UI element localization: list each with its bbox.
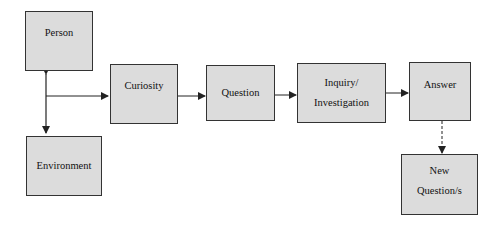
node-curiosity: Curiosity <box>110 64 178 124</box>
node-environment: Environment <box>26 136 102 196</box>
node-label-line1: Inquiry/ <box>325 73 359 93</box>
node-label: Person <box>45 23 74 43</box>
node-label: Environment <box>37 156 92 176</box>
node-question: Question <box>206 65 275 121</box>
node-answer: Answer <box>409 62 471 121</box>
inquiry-process-diagram: Person Environment Curiosity Question In… <box>0 0 502 227</box>
node-label-line1: New <box>430 161 450 181</box>
node-person: Person <box>25 11 93 71</box>
node-inquiry-investigation: Inquiry/ Investigation <box>297 63 386 123</box>
node-label: Curiosity <box>124 76 163 96</box>
node-label-line2: Question/s <box>417 181 462 201</box>
node-label-line2: Investigation <box>314 93 369 113</box>
node-new-questions: New Question/s <box>401 154 478 215</box>
node-label: Question <box>222 83 260 103</box>
node-label: Answer <box>424 75 457 95</box>
